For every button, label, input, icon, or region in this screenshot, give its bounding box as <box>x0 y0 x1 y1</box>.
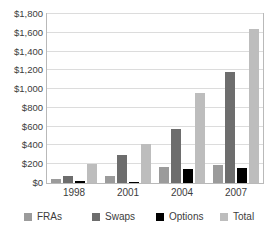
bar-group <box>209 14 263 183</box>
y-tick-label: $400 <box>0 140 43 150</box>
x-tick-label: 2004 <box>155 186 209 199</box>
bar-fras-2007 <box>213 165 223 183</box>
y-tick-label: $1,000 <box>0 84 43 94</box>
y-tick-label: $1,600 <box>0 28 43 38</box>
legend-swatch-icon <box>156 213 164 221</box>
legend-label: Total <box>233 211 254 223</box>
y-axis: $0$200$400$600$800$1,000$1,200$1,400$1,6… <box>0 0 43 196</box>
bar-options-1998 <box>75 181 85 183</box>
y-tick-label: $600 <box>0 122 43 132</box>
legend-item-options[interactable]: Options <box>156 211 203 223</box>
x-axis: 1998200120042007 <box>47 186 263 202</box>
legend-label: FRAs <box>37 211 62 223</box>
bar-options-2007 <box>237 168 247 183</box>
legend-swatch-icon <box>92 213 100 221</box>
legend-swatch-icon <box>24 213 32 221</box>
legend-swatch-icon <box>220 213 228 221</box>
y-tick-label: $200 <box>0 159 43 169</box>
x-tick-label: 1998 <box>47 186 101 199</box>
bar-options-2001 <box>129 182 139 183</box>
chart-legend: FRAsSwapsOptionsTotal <box>24 211 254 227</box>
bar-group <box>155 14 209 183</box>
bar-chart: $0$200$400$600$800$1,000$1,200$1,400$1,6… <box>0 0 272 236</box>
legend-item-total[interactable]: Total <box>220 211 254 223</box>
bar-group <box>47 14 101 183</box>
bar-fras-2004 <box>159 167 169 183</box>
bar-total-2001 <box>141 144 151 183</box>
bar-total-1998 <box>87 164 97 183</box>
bar-fras-2001 <box>105 176 115 183</box>
legend-item-fras[interactable]: FRAs <box>24 211 62 223</box>
y-tick-label: $1,800 <box>0 9 43 19</box>
bar-fras-1998 <box>51 179 61 183</box>
bar-total-2007 <box>249 29 259 183</box>
y-tick-label: $800 <box>0 103 43 113</box>
x-tick-label: 2007 <box>209 186 263 199</box>
bars-layer <box>47 14 263 183</box>
bar-swaps-2007 <box>225 72 235 183</box>
legend-label: Options <box>169 211 203 223</box>
bar-total-2004 <box>195 93 205 183</box>
bar-swaps-2001 <box>117 155 127 183</box>
bar-swaps-1998 <box>63 176 73 183</box>
y-tick-label: $1,400 <box>0 47 43 57</box>
bar-swaps-2004 <box>171 129 181 183</box>
y-tick-label: $1,200 <box>0 65 43 75</box>
bar-options-2004 <box>183 169 193 183</box>
y-tick-label: $0 <box>0 178 43 188</box>
bar-group <box>101 14 155 183</box>
legend-item-swaps[interactable]: Swaps <box>92 211 135 223</box>
legend-label: Swaps <box>105 211 135 223</box>
x-tick-label: 2001 <box>101 186 155 199</box>
